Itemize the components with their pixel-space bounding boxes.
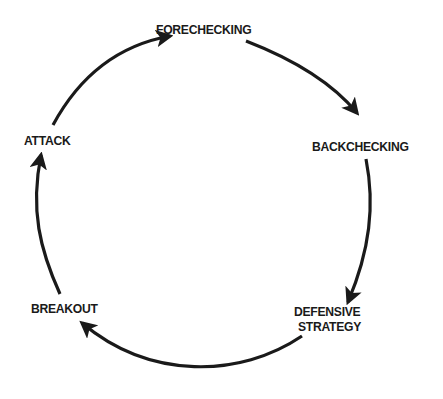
arrow-defensive-to-breakout: [82, 323, 302, 367]
cycle-arrows: [0, 0, 443, 399]
cycle-diagram: FORECHECKING BACKCHECKING DEFENSIVE STRA…: [0, 0, 443, 399]
node-attack: ATTACK: [24, 133, 71, 148]
node-defensive-line2: STRATEGY: [298, 319, 361, 334]
arrow-breakout-to-attack: [36, 155, 60, 294]
node-forechecking: FORECHECKING: [156, 22, 251, 37]
node-breakout: BREAKOUT: [31, 301, 98, 316]
arrow-forechecking-to-backchecking: [246, 41, 357, 113]
node-backchecking: BACKCHECKING: [312, 139, 409, 154]
arrow-backchecking-to-defensive: [348, 159, 370, 302]
node-defensive-line1: DEFENSIVE: [294, 304, 360, 319]
arrow-attack-to-forechecking: [53, 36, 170, 125]
